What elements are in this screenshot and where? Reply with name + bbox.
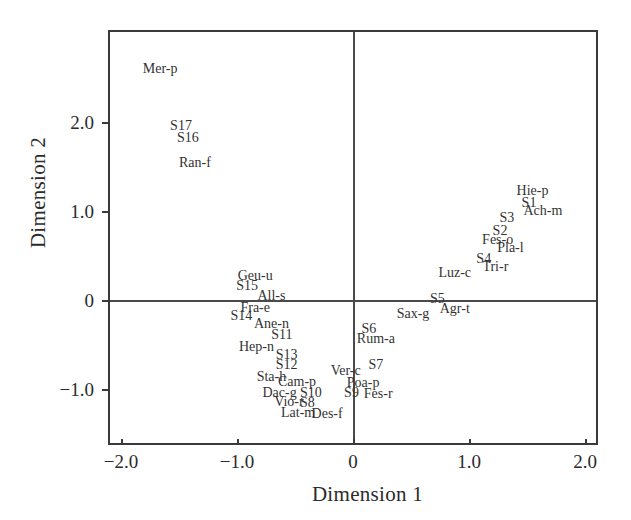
y-axis-tick	[102, 300, 108, 302]
y-axis-tick-label: 0	[30, 291, 94, 310]
y-axis-tick-label: −1.0	[30, 380, 94, 399]
data-point-label: Sax-g	[397, 307, 430, 321]
x-axis-tick	[121, 439, 123, 445]
data-point-label: Agr-t	[440, 302, 470, 316]
x-axis-tick	[237, 439, 239, 445]
x-axis-tick	[353, 439, 355, 445]
plot-frame: Mer-pS17S16Ran-fHie-pS1Ach-mS3S2Fes-oPla…	[108, 30, 598, 445]
x-axis-tick-label: 0	[348, 452, 358, 471]
horizontal-zero-axis-line	[110, 300, 596, 302]
x-axis-tick-label: −1.0	[220, 452, 254, 471]
y-axis-tick	[102, 122, 108, 124]
data-point-label: Mer-p	[143, 62, 178, 76]
x-axis-tick	[469, 439, 471, 445]
data-point-label: Tri-r	[482, 260, 508, 274]
data-point-label: S15	[236, 279, 258, 293]
x-axis-tick-label: −2.0	[104, 452, 138, 471]
data-point-label: Pla-l	[497, 241, 523, 255]
data-point-label: S11	[271, 328, 292, 342]
x-axis-tick-label: 1.0	[457, 452, 481, 471]
data-point-label: S7	[368, 358, 383, 372]
data-point-label: S9	[344, 386, 359, 400]
y-axis-title: Dimension 2	[26, 93, 51, 293]
data-point-label: Luz-c	[438, 266, 471, 280]
data-point-label: Fes-r	[364, 387, 393, 401]
data-point-label: S14	[230, 309, 252, 323]
y-axis-tick	[102, 211, 108, 213]
x-axis-title-text: Dimension 1	[312, 482, 423, 507]
data-point-label: Ach-m	[523, 204, 562, 218]
data-point-label: Des-f	[312, 407, 343, 421]
x-axis-tick	[585, 439, 587, 445]
correspondence-analysis-plot: Mer-pS17S16Ran-fHie-pS1Ach-mS3S2Fes-oPla…	[0, 0, 631, 520]
data-point-label: Ran-f	[179, 156, 211, 170]
data-point-label: Rum-a	[357, 332, 395, 346]
data-point-label: S16	[177, 131, 199, 145]
x-axis-tick-label: 2.0	[573, 452, 597, 471]
x-axis-title: Dimension 1	[0, 482, 631, 507]
y-axis-tick	[102, 389, 108, 391]
data-point-label: Lat-m	[281, 406, 315, 420]
data-point-label: Hep-n	[239, 340, 274, 354]
